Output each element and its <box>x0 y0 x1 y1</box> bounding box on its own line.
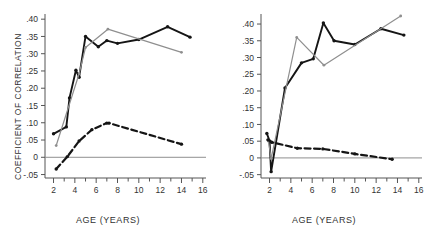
data-point <box>296 147 299 150</box>
x-tick-label: 4 <box>288 185 293 195</box>
data-point <box>84 46 87 49</box>
y-tick-label: .25 <box>242 69 254 79</box>
y-tick-label: -.05 <box>23 170 38 180</box>
y-tick-label: .10 <box>26 118 38 128</box>
x-tick-label: 12 <box>155 185 165 195</box>
data-point <box>399 15 402 18</box>
y-tick-label: .05 <box>26 135 38 145</box>
y-tick-label: .40 <box>242 19 254 29</box>
data-point <box>180 51 183 54</box>
data-point <box>90 128 93 131</box>
x-tick-label: 2 <box>51 185 56 195</box>
x-tick-label: 14 <box>177 185 187 195</box>
data-point <box>269 170 272 173</box>
data-point <box>116 42 119 45</box>
data-point <box>107 28 110 31</box>
x-tick-label: 6 <box>94 185 99 195</box>
x-axis-title-right: AGE (YEARS) <box>216 215 432 225</box>
figure-root: -.050.05.10.15.20.25.30.35.4024681012141… <box>0 0 432 230</box>
x-tick-label: 10 <box>350 185 360 195</box>
y-tick-label: .35 <box>26 32 38 42</box>
x-axis-title-left: AGE (YEARS) <box>0 215 216 225</box>
data-point <box>166 25 169 28</box>
series-black-dashed <box>56 123 181 169</box>
right-panel-plot: -.050.05.10.15.20.25.30.35.4024681012141… <box>216 0 432 230</box>
series-black-solid <box>267 23 404 172</box>
data-point <box>77 139 80 142</box>
y-tick-label: .15 <box>242 103 254 113</box>
data-point <box>105 39 108 42</box>
x-tick-label: 14 <box>393 185 403 195</box>
data-point <box>270 157 273 160</box>
data-point <box>265 132 268 135</box>
y-axis-title: COEFFICIENT OF CORRELATION <box>13 33 23 180</box>
left-panel-plot: -.050.05.10.15.20.25.30.35.4024681012141… <box>0 0 216 230</box>
y-tick-label: .10 <box>242 120 254 130</box>
data-point <box>332 39 335 42</box>
data-point <box>353 152 356 155</box>
data-point <box>295 36 298 39</box>
data-point <box>55 144 58 147</box>
data-point <box>52 132 55 135</box>
data-point <box>65 125 68 128</box>
y-tick-label: -.05 <box>239 170 254 180</box>
y-tick-label: 0 <box>249 153 254 163</box>
y-tick-label: 0 <box>33 152 38 162</box>
x-tick-label: 2 <box>267 185 272 195</box>
y-tick-label: .05 <box>242 136 254 146</box>
x-tick-label: 12 <box>371 185 381 195</box>
series-black-dashed <box>268 140 392 159</box>
data-point <box>266 138 269 141</box>
x-tick-label: 6 <box>310 185 315 195</box>
data-point <box>300 61 303 64</box>
y-tick-label: .40 <box>26 14 38 24</box>
data-point <box>402 33 405 36</box>
data-point <box>390 158 393 161</box>
data-point <box>180 142 183 145</box>
left-panel: -.050.05.10.15.20.25.30.35.4024681012141… <box>0 0 216 230</box>
y-tick-label: .30 <box>26 49 38 59</box>
data-point <box>270 140 273 143</box>
series-black-solid <box>54 27 190 134</box>
y-tick-label: .30 <box>242 53 254 63</box>
y-tick-label: .20 <box>242 86 254 96</box>
y-tick-label: .15 <box>26 101 38 111</box>
data-point <box>323 64 326 67</box>
data-point <box>74 69 77 72</box>
data-point <box>107 121 110 124</box>
data-point <box>188 35 191 38</box>
series-gray-solid <box>56 29 181 145</box>
x-tick-label: 8 <box>115 185 120 195</box>
data-point <box>84 35 87 38</box>
data-point <box>321 147 324 150</box>
data-point <box>97 45 100 48</box>
x-tick-label: 16 <box>414 185 424 195</box>
x-tick-label: 8 <box>331 185 336 195</box>
x-tick-label: 16 <box>198 185 208 195</box>
x-tick-label: 10 <box>134 185 144 195</box>
y-tick-label: .35 <box>242 36 254 46</box>
data-point <box>312 57 315 60</box>
y-tick-label: .25 <box>26 66 38 76</box>
y-tick-label: .20 <box>26 83 38 93</box>
data-point <box>66 155 69 158</box>
x-tick-label: 4 <box>72 185 77 195</box>
data-point <box>78 72 81 75</box>
right-panel: -.050.05.10.15.20.25.30.35.4024681012141… <box>216 0 432 230</box>
data-point <box>55 167 58 170</box>
series-gray-solid <box>268 16 400 159</box>
data-point <box>322 21 325 24</box>
